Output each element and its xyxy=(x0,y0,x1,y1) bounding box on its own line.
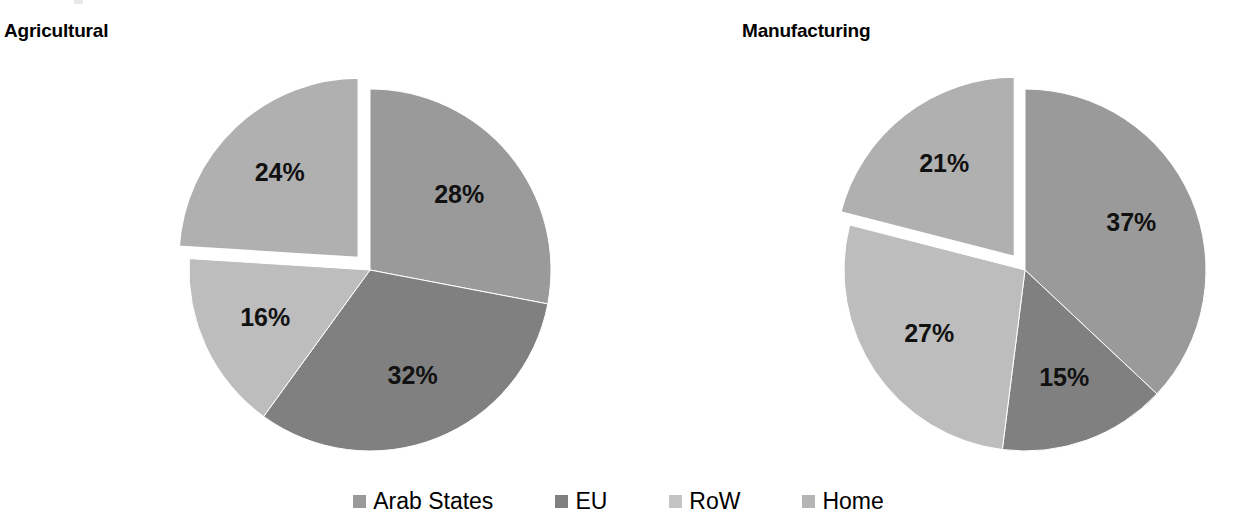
pie-slice-home[interactable] xyxy=(840,76,1015,257)
pie-chart-manufacturing: 37%15%27%21% xyxy=(840,76,1206,451)
legend-item-eu[interactable]: EU xyxy=(555,490,607,513)
legend-swatch-icon-row xyxy=(669,495,682,508)
legend-label-row: RoW xyxy=(689,490,740,513)
pie-slice-arab-states[interactable] xyxy=(370,89,551,304)
pie-slice-row[interactable] xyxy=(844,225,1025,450)
legend-swatch-icon-eu xyxy=(555,495,568,508)
pie-slice-label: 37% xyxy=(1106,208,1156,236)
legend-item-arab-states[interactable]: Arab States xyxy=(353,490,493,513)
chart-title-manufacturing: Manufacturing xyxy=(742,20,870,42)
chart-legend: Arab States EU RoW Home xyxy=(0,484,1237,518)
legend-swatch-icon-arab-states xyxy=(353,495,366,508)
legend-label-arab-states: Arab States xyxy=(373,490,493,513)
pie-charts-svg: 28%32%16%24% 37%15%27%21% xyxy=(0,0,1237,470)
pie-slice-home[interactable] xyxy=(178,77,359,258)
pie-charts-area: 28%32%16%24% 37%15%27%21% xyxy=(0,0,1237,470)
legend-swatch-icon-home xyxy=(802,495,815,508)
legend-label-eu: EU xyxy=(575,490,607,513)
pie-slice-label: 15% xyxy=(1039,363,1089,391)
pie-slice-label: 28% xyxy=(434,180,484,208)
pie-chart-agricultural: 28%32%16%24% xyxy=(178,77,551,451)
pie-slice-label: 16% xyxy=(240,303,290,331)
legend-item-row[interactable]: RoW xyxy=(669,490,740,513)
scan-artifact xyxy=(74,0,83,4)
legend-label-home: Home xyxy=(822,490,883,513)
pie-slice-row[interactable] xyxy=(189,259,370,417)
pie-slice-eu[interactable] xyxy=(264,270,548,451)
pie-slice-label: 24% xyxy=(255,158,305,186)
pie-slice-eu[interactable] xyxy=(1002,270,1157,451)
legend-item-home[interactable]: Home xyxy=(802,490,883,513)
pie-slice-arab-states[interactable] xyxy=(1025,89,1206,394)
chart-title-agricultural: Agricultural xyxy=(4,20,108,42)
chart-page: Agricultural Manufacturing 28%32%16%24% … xyxy=(0,0,1237,525)
pie-slice-label: 32% xyxy=(388,361,438,389)
pie-slice-label: 21% xyxy=(919,149,969,177)
pie-slice-label: 27% xyxy=(904,319,954,347)
